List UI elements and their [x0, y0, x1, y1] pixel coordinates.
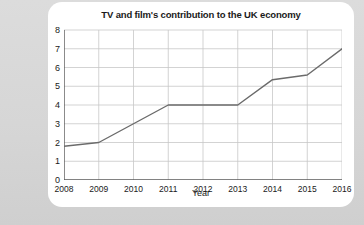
y-axis-tick-label: 7	[55, 44, 60, 54]
y-axis-tick-label: 6	[55, 63, 60, 73]
line-chart-svg	[64, 28, 342, 180]
x-axis-title: Year	[48, 188, 354, 198]
chart-title: TV and film's contribution to the UK eco…	[48, 9, 354, 20]
chart-card: TV and film's contribution to the UK eco…	[48, 2, 354, 207]
y-axis-tick-label: 4	[55, 100, 60, 110]
y-axis-tick-label: 5	[55, 81, 60, 91]
y-axis-tick-label: 1	[55, 156, 60, 166]
y-axis-tick-label: 3	[55, 119, 60, 129]
plot-area: 012345678 200820092010201120122013201420…	[64, 28, 342, 180]
y-axis-tick-label: 2	[55, 138, 60, 148]
y-axis-tick-label: 8	[55, 25, 60, 35]
